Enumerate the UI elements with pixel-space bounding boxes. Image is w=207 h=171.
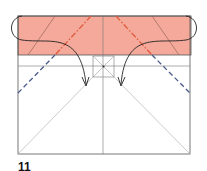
step-number: 11 xyxy=(18,160,31,171)
diagonal-crease-left xyxy=(18,77,93,154)
valley-fold-left xyxy=(18,55,55,93)
colored-top-flap xyxy=(18,16,191,55)
step-caption: 11 xyxy=(18,160,37,171)
diagonal-crease-right xyxy=(114,77,190,154)
valley-fold-right xyxy=(152,55,190,93)
center-point xyxy=(103,66,105,68)
origami-diagram xyxy=(0,0,207,171)
